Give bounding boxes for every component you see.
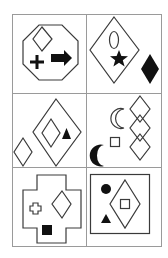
stacked-diamond-1-icon [130,96,150,122]
outline-small-cross-icon [30,203,41,214]
filled-arrow-right-icon [51,50,72,66]
outline-diamond-outside-icon [14,138,32,166]
filled-crescent-icon [90,145,104,167]
outline-diamond-icon [33,27,52,51]
outline-diamond-icon [110,180,140,228]
cell-6[interactable] [91,175,150,234]
filled-circle-icon [101,184,111,194]
cell-4[interactable] [90,96,150,166]
outline-crescent-icon [111,108,124,128]
filled-triangle-icon [101,214,111,223]
cell-1[interactable] [23,25,78,80]
filled-square-icon [42,225,52,235]
cell-5[interactable] [23,175,81,243]
outline-inner-square-icon [121,200,130,209]
cell-3[interactable] [14,99,81,166]
outline-square-icon [111,138,120,147]
filled-star-icon [110,50,128,67]
diamond-frame [90,17,139,83]
filled-diamond-icon [141,54,159,84]
stacked-diamond-2-icon [130,115,150,141]
diamond-frame [33,99,81,166]
outline-oval-icon [110,32,119,49]
outline-inner-diamond-icon [42,119,60,147]
filled-plus-icon [30,55,44,69]
figure-puzzle-grid [0,0,168,258]
cell-2[interactable] [90,17,159,84]
filled-triangle-icon [62,128,71,139]
octagon-frame [23,25,78,80]
stacked-diamond-3-icon [130,134,150,160]
outline-diamond-icon [52,191,71,218]
